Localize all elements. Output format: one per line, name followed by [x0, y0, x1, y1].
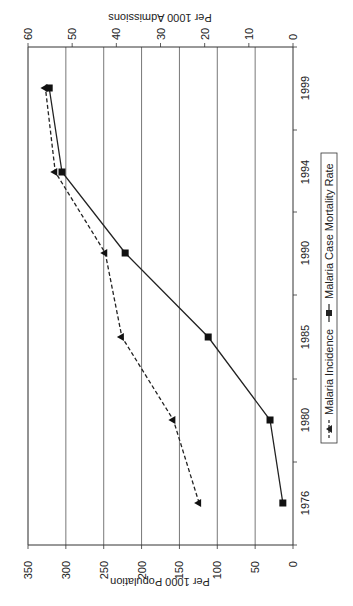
incidence-line [45, 88, 199, 503]
admissions-axis-ticks: 0102030405060 [22, 28, 299, 47]
square-marker-icon [59, 169, 66, 176]
population-axis-title: Per 1000 Population [110, 576, 210, 588]
axes [28, 47, 293, 545]
triangle-marker-icon [168, 416, 175, 424]
year-axis-ticks: 197619801985199019941999 [293, 47, 311, 545]
tick-label: 10 [243, 28, 255, 40]
year-label: 1976 [299, 491, 311, 515]
tick-label: 350 [22, 561, 34, 579]
tick-label: 40 [110, 28, 122, 40]
tick-label: 30 [155, 28, 167, 40]
legend: Malaria Incidence Malaria Case Mortality… [321, 153, 337, 443]
triangle-marker-icon [117, 333, 124, 341]
year-label: 1990 [299, 241, 311, 265]
square-marker-icon [205, 334, 212, 341]
tick-label: 300 [60, 561, 72, 579]
tick-label: 60 [22, 28, 34, 40]
year-label: 1985 [299, 325, 311, 349]
year-label: 1999 [299, 76, 311, 100]
year-label: 1980 [299, 408, 311, 432]
tick-label: 50 [66, 28, 78, 40]
malaria-chart: 050100150200250300350 0102030405060 1976… [0, 0, 353, 606]
tick-label: 0 [287, 561, 299, 567]
square-marker-icon [122, 250, 129, 257]
triangle-marker-icon [50, 168, 57, 176]
square-marker-icon [46, 85, 53, 92]
population-axis-ticks: 050100150200250300350 [22, 545, 299, 579]
mortality-line [49, 88, 283, 503]
legend-mortality-label: Malaria Case Mortality Rate [323, 163, 335, 299]
tick-label: 50 [249, 561, 261, 573]
square-marker-icon [279, 500, 286, 507]
tick-label: 20 [199, 28, 211, 40]
admissions-axis-title: Per 1000 Admissions [108, 12, 212, 24]
tick-label: 100 [211, 561, 223, 579]
legend-incidence-label: Malaria Incidence [323, 329, 335, 415]
tick-label: 0 [287, 34, 299, 40]
square-marker-icon [326, 310, 332, 316]
gridlines [28, 47, 255, 545]
series-lines [40, 84, 286, 507]
year-label: 1994 [299, 160, 311, 184]
square-marker-icon [267, 417, 274, 424]
tick-label: 250 [98, 561, 110, 579]
